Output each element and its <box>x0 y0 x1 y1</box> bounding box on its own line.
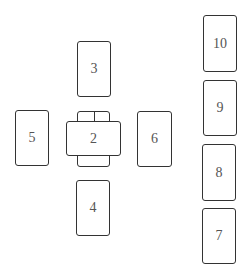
card-7: 7 <box>202 208 236 264</box>
card-10-label: 10 <box>213 36 227 52</box>
card-9-label: 9 <box>217 100 224 116</box>
card-4-label: 4 <box>90 200 97 216</box>
card-2: 2 <box>66 121 121 156</box>
card-6: 6 <box>137 111 172 167</box>
card-3: 3 <box>77 41 111 97</box>
card-5: 5 <box>15 110 49 166</box>
card-4: 4 <box>76 180 110 236</box>
card-10: 10 <box>203 15 237 72</box>
card-3-label: 3 <box>91 61 98 77</box>
card-9: 9 <box>203 80 237 136</box>
card-5-label: 5 <box>29 130 36 146</box>
card-7-label: 7 <box>216 228 223 244</box>
card-8-label: 8 <box>216 165 223 181</box>
card-8: 8 <box>202 144 236 201</box>
card-6-label: 6 <box>151 131 158 147</box>
card-2-label: 2 <box>90 131 97 147</box>
